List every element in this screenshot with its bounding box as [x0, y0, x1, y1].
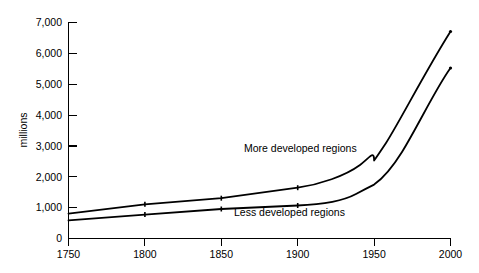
y-axis-tick-labels: 7,000 6,000 5,000 4,000 3,000 2,000 1,00…	[36, 16, 62, 244]
endpoint-less-developed-2000	[449, 66, 452, 69]
population-growth-chart: 7,000 6,000 5,000 4,000 3,000 2,000 1,00…	[0, 0, 479, 273]
y-tick-label-5000: 5,000	[36, 78, 62, 90]
chart-canvas: 7,000 6,000 5,000 4,000 3,000 2,000 1,00…	[0, 0, 479, 273]
y-axis-ticks	[69, 23, 77, 208]
y-tick-label-1000: 1,000	[36, 201, 62, 213]
x-tick-label-1950: 1950	[362, 248, 386, 260]
series-label-less-developed: Less developed regions	[234, 206, 345, 218]
y-tick-label-7000: 7,000	[36, 16, 62, 28]
x-tick-label-1850: 1850	[210, 248, 234, 260]
series-points-more-developed	[145, 185, 298, 207]
series-label-more-developed: More developed regions	[244, 142, 357, 154]
x-axis-tick-labels: 1750 1800 1850 1900 1950 2000	[57, 248, 463, 260]
series-line-more-developed	[69, 32, 451, 214]
x-tick-label-1900: 1900	[286, 248, 310, 260]
y-tick-label-4000: 4,000	[36, 109, 62, 121]
y-tick-label-3000: 3,000	[36, 140, 62, 152]
y-tick-label-6000: 6,000	[36, 47, 62, 59]
x-tick-label-1800: 1800	[133, 248, 157, 260]
endpoint-more-developed-2000	[449, 30, 452, 33]
x-tick-label-1750: 1750	[57, 248, 81, 260]
y-tick-label-0: 0	[56, 232, 62, 244]
y-tick-label-2000: 2,000	[36, 171, 62, 183]
x-tick-label-2000: 2000	[439, 248, 463, 260]
y-axis-title: millions	[17, 112, 29, 147]
x-axis-ticks	[69, 239, 451, 246]
